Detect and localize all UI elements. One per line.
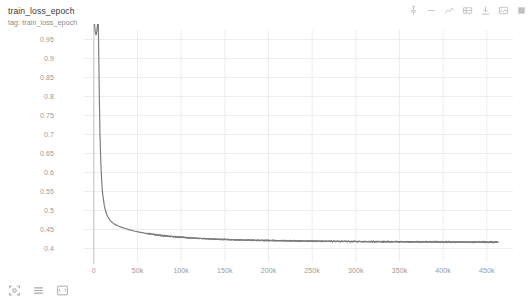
y-tick-label: 0.65 (22, 150, 54, 157)
y-tick-label: 0.45 (22, 226, 54, 233)
series-line-train-loss-epoch (94, 24, 497, 242)
data-table-icon[interactable] (462, 5, 473, 16)
x-tick-label: 150k (205, 267, 245, 274)
y-tick-label: 0.5 (22, 207, 54, 214)
pin-icon[interactable] (408, 5, 419, 16)
x-tick-label: 100k (161, 267, 201, 274)
y-tick-label: 0.7 (22, 131, 54, 138)
x-tick-label: 400k (423, 267, 463, 274)
x-tick-label: 450k (467, 267, 507, 274)
x-tick-label: 200k (249, 267, 289, 274)
y-tick-label: 0.8 (22, 93, 54, 100)
series-noise-segment (497, 242, 498, 243)
y-tick-label: 0.4 (22, 245, 54, 252)
y-tick-label: 0.6 (22, 169, 54, 176)
x-tick-label: 350k (379, 267, 419, 274)
fit-domain-icon[interactable] (8, 284, 21, 297)
x-tick-label: 50k (118, 267, 158, 274)
fullscreen-icon[interactable] (516, 5, 527, 16)
y-tick-label: 0.75 (22, 112, 54, 119)
chart-toolbar (408, 3, 527, 18)
image-icon[interactable] (498, 5, 509, 16)
y-tick-label: 0.95 (22, 36, 54, 43)
scalar-chart-card: train_loss_epoch tag: train_loss_epoch (0, 0, 532, 302)
x-tick-label: 300k (336, 267, 376, 274)
settings-lines-icon[interactable] (32, 284, 45, 297)
y-tick-label: 0.55 (22, 188, 54, 195)
chart-title: train_loss_epoch (8, 6, 428, 17)
dash-icon[interactable] (426, 5, 437, 16)
plot-svg[interactable] (0, 24, 532, 272)
horizontal-gridlines (84, 40, 513, 249)
y-tick-label: 0.9 (22, 55, 54, 62)
x-tick-label: 250k (292, 267, 332, 274)
expand-icon[interactable] (56, 284, 69, 297)
chart-type-icon[interactable] (444, 5, 455, 16)
download-icon[interactable] (480, 5, 491, 16)
plot-area[interactable]: 0.40.450.50.550.60.650.70.750.80.850.90.… (0, 24, 532, 272)
chart-control-bar (8, 284, 69, 297)
y-tick-label: 0.85 (22, 74, 54, 81)
series-noise-overlay (146, 233, 498, 243)
x-tick-label: 0 (74, 267, 114, 274)
vertical-gridlines (94, 30, 487, 262)
